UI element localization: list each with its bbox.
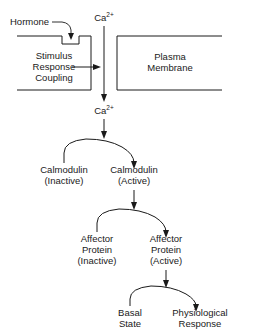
label-calmodulin-active: Calmodulin (Active): [110, 164, 158, 186]
outcome-branch-arc: [130, 286, 196, 306]
stimulus-line-2: Response: [33, 61, 76, 72]
calcium-to-calmodulin-arrowhead: [101, 131, 107, 139]
affector-active-line-1: Affector: [150, 233, 183, 244]
label-physiological-response: Physiological Response: [172, 307, 227, 329]
calcium-intracellular-charge: 2+: [106, 104, 113, 111]
basal-line-2: State: [118, 318, 142, 329]
affector-active-line-2: Protein: [150, 244, 183, 255]
stimulus-to-channel-arrowhead: [93, 64, 101, 70]
stimulus-line-1: Stimulus: [33, 50, 76, 61]
label-calcium-extracellular: Ca2+: [94, 12, 114, 23]
affector-inactive-line-1: Affector: [77, 233, 116, 244]
signal-transduction-diagram: Hormone Ca2+ Ca2+ Stimulus Response Coup…: [0, 0, 255, 334]
label-stimulus-response-coupling: Stimulus Response Coupling: [33, 50, 76, 83]
calcium-influx-arrowhead: [101, 94, 107, 102]
physiological-line-2: Response: [172, 318, 227, 329]
basal-line-1: Basal: [118, 307, 142, 318]
plasma-line-2: Membrane: [147, 62, 192, 73]
hormone-pointer-line: [52, 22, 71, 34]
affector-activation-arc: [97, 209, 166, 232]
calmodulin-active-line-1: Calmodulin: [110, 164, 158, 175]
calcium-extracellular-symbol: Ca: [94, 12, 106, 23]
left-membrane-top-edge-with-notch: [17, 36, 91, 44]
calmodulin-activation-arc: [64, 139, 134, 163]
label-affector-protein-active: Affector Protein (Active): [150, 233, 183, 266]
label-affector-protein-inactive: Affector Protein (Inactive): [77, 233, 116, 266]
label-basal-state: Basal State: [118, 307, 142, 329]
plasma-line-1: Plasma: [147, 51, 192, 62]
label-calcium-intracellular: Ca2+: [94, 105, 114, 116]
calmodulin-inactive-line-1: Calmodulin: [40, 164, 88, 175]
affector-active-line-3: (Active): [150, 255, 183, 266]
calmodulin-inactive-line-2: (Inactive): [40, 175, 88, 186]
calmodulin-active-line-2: (Active): [110, 175, 158, 186]
label-hormone: Hormone: [10, 16, 49, 27]
calcium-extracellular-charge: 2+: [106, 11, 113, 18]
calmodulin-to-affector-arrowhead: [131, 202, 137, 210]
affector-inactive-line-2: Protein: [77, 244, 116, 255]
stimulus-line-3: Coupling: [33, 72, 76, 83]
affector-inactive-line-3: (Inactive): [77, 255, 116, 266]
label-calmodulin-inactive: Calmodulin (Inactive): [40, 164, 88, 186]
physiological-line-1: Physiological: [172, 307, 227, 318]
calcium-intracellular-symbol: Ca: [94, 105, 106, 116]
hormone-arrowhead: [68, 33, 74, 40]
label-plasma-membrane: Plasma Membrane: [147, 51, 192, 73]
